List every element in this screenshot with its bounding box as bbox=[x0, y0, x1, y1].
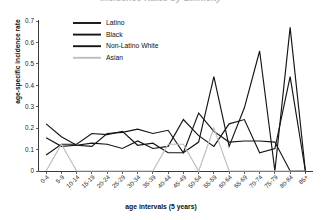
x-tick-label: 10-14 bbox=[65, 173, 81, 189]
x-tick-label: 85+ bbox=[297, 173, 310, 186]
x-tick-label: 65-69 bbox=[232, 173, 248, 189]
y-tick-label: 0 bbox=[30, 167, 34, 174]
chart-legend: LatinoBlackNon-Latino WhiteAsian bbox=[73, 19, 159, 61]
x-tick-label: 15-19 bbox=[80, 173, 96, 189]
x-tick-label: 25-29 bbox=[110, 173, 126, 189]
data-series-group bbox=[46, 27, 305, 171]
y-tick-label: 0.7 bbox=[25, 17, 34, 24]
legend-label-asian: Asian bbox=[106, 54, 123, 61]
x-tick-label: 40-44 bbox=[156, 173, 172, 189]
x-axis-ticks: 0-45-910-1415-1920-2425-2930-3435-3940-4… bbox=[39, 171, 310, 189]
series-line-latino bbox=[46, 113, 305, 171]
line-chart-plot: 00.10.20.30.40.50.60.7 0-45-910-1415-192… bbox=[0, 0, 322, 220]
x-tick-label: 0-4 bbox=[39, 173, 51, 185]
series-line-asian bbox=[46, 128, 305, 171]
x-tick-label: 45-49 bbox=[171, 173, 187, 189]
x-tick-label: 20-24 bbox=[95, 173, 111, 189]
y-tick-label: 0.3 bbox=[25, 103, 34, 110]
x-tick-label: 80-84 bbox=[278, 173, 294, 189]
x-tick-label: 30-34 bbox=[126, 173, 142, 189]
y-tick-label: 0.6 bbox=[25, 39, 34, 46]
series-line-non-latino-white bbox=[46, 77, 305, 171]
x-tick-label: 50-54 bbox=[187, 173, 203, 189]
x-tick-label: 75-79 bbox=[263, 173, 279, 189]
y-tick-label: 0.2 bbox=[25, 124, 34, 131]
x-tick-label: 60-64 bbox=[217, 173, 233, 189]
x-tick-label: 5-9 bbox=[54, 173, 66, 185]
legend-label-black: Black bbox=[106, 31, 123, 38]
x-tick-label: 70-74 bbox=[248, 173, 264, 189]
y-axis-ticks: 00.10.20.30.40.50.60.7 bbox=[25, 17, 38, 174]
chart-figure: Incidence Rates by Ethnicity age-specifi… bbox=[0, 0, 322, 220]
x-tick-label: 55-59 bbox=[202, 173, 218, 189]
legend-label-non-latino-white: Non-Latino White bbox=[106, 42, 159, 49]
y-tick-label: 0.5 bbox=[25, 60, 34, 67]
y-tick-label: 0.4 bbox=[25, 82, 34, 89]
y-tick-label: 0.1 bbox=[25, 146, 34, 153]
series-line-black bbox=[46, 27, 305, 171]
x-tick-label: 35-39 bbox=[141, 173, 157, 189]
legend-label-latino: Latino bbox=[106, 19, 125, 26]
